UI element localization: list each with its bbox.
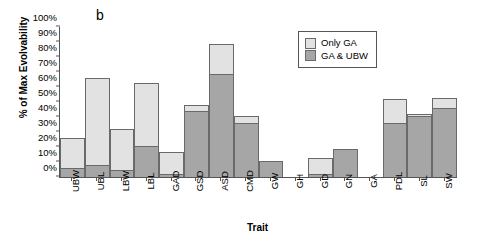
x-axis-title: Trait [59, 222, 456, 233]
legend-swatch-icon [305, 50, 316, 61]
legend-label: Only GA [321, 38, 357, 48]
x-axis-tick-label: GAD [171, 171, 181, 192]
x-tick-slot: GD [307, 181, 332, 225]
bar-segment-only-ga[interactable] [134, 83, 159, 146]
y-axis-tick-label: 70% [38, 58, 57, 68]
y-axis-tick-label: 60% [38, 73, 57, 83]
legend-label: GA & UBW [321, 51, 368, 61]
bar-segment-only-ga[interactable] [110, 129, 135, 170]
stacked-bar[interactable] [209, 44, 234, 178]
bar-segment-only-ga[interactable] [308, 158, 333, 175]
x-tick-slot: CMD [233, 181, 258, 225]
x-axis-tick-label: SW [444, 173, 454, 188]
x-axis-tick-label: GD [320, 174, 330, 188]
bar-segment-ga-and-ubw[interactable] [333, 149, 358, 178]
y-axis-title: % of Max Evolvability [18, 0, 29, 143]
y-axis-tick-label: 10% [38, 148, 57, 158]
x-tick-slot: LBW [109, 181, 134, 225]
x-tick-slot: PDL [382, 181, 407, 225]
x-axis-tick-label: GW [270, 173, 280, 189]
x-axis-tick-label: UBW [71, 170, 81, 192]
x-tick-slot: GW [258, 181, 283, 225]
bar-segment-only-ga[interactable] [432, 98, 457, 109]
x-tick-slot: LBL [133, 181, 158, 225]
y-axis-tick-label: 0% [43, 163, 57, 173]
x-axis-tick-labels: UBWUBLLBWLBLGADGSDASDCMDGWGHGDGNGAPDLSLS… [59, 181, 456, 225]
x-tick-slot: UBL [84, 181, 109, 225]
bar-slot [259, 27, 284, 177]
bar-segment-only-ga[interactable] [60, 138, 85, 168]
panel-letter: b [96, 8, 104, 22]
y-axis-tick-label: 80% [38, 43, 57, 53]
stacked-bar[interactable] [432, 98, 457, 178]
x-axis-tick-label: PDL [394, 172, 404, 190]
bar-segment-only-ga[interactable] [234, 116, 259, 124]
bar-slot [85, 27, 110, 177]
stacked-bar[interactable] [333, 149, 358, 178]
bar-slot [159, 27, 184, 177]
legend-swatch-icon [305, 38, 316, 49]
x-tick-slot: SW [431, 181, 456, 225]
y-axis-tick-label: 90% [38, 28, 57, 38]
bar-segment-only-ga[interactable] [209, 44, 234, 74]
y-axis-tick-label: 100% [33, 13, 57, 23]
figure-panel-b: b % of Max Evolvability 0%10%20%30%40%50… [0, 0, 480, 238]
x-tick-slot: GA [357, 181, 382, 225]
bar-slot [383, 27, 408, 177]
bar-slot [184, 27, 209, 177]
x-tick-slot: GAD [158, 181, 183, 225]
bar-slot [432, 27, 457, 177]
stacked-bar[interactable] [85, 78, 110, 177]
x-axis-tick-label: UBL [96, 172, 106, 190]
x-axis-tick-label: GA [369, 174, 379, 188]
x-axis-tick-label: LBL [146, 173, 156, 190]
x-tick-slot: SL [406, 181, 431, 225]
x-tick-slot: GN [332, 181, 357, 225]
y-axis-tick-label: 30% [38, 118, 57, 128]
y-axis-tick-label: 20% [38, 133, 57, 143]
bar-segment-only-ga[interactable] [383, 99, 408, 123]
x-axis-tick-label: GSD [195, 171, 205, 192]
legend-item[interactable]: GA & UBW [305, 50, 368, 61]
stacked-bar[interactable] [383, 99, 408, 177]
x-axis-tick-label: GN [344, 174, 354, 188]
chart-legend: Only GAGA & UBW [298, 31, 377, 68]
y-axis-tick-label: 50% [38, 88, 57, 98]
bar-segment-ga-and-ubw[interactable] [432, 108, 457, 177]
x-axis-tick-label: GH [295, 174, 305, 188]
stacked-bar[interactable] [184, 105, 209, 177]
y-axis-tick-label: 40% [38, 103, 57, 113]
stacked-bar[interactable] [134, 83, 159, 178]
bar-slot [60, 27, 85, 177]
stacked-bar[interactable] [234, 116, 259, 178]
x-axis-tick-label: LBW [121, 171, 131, 192]
x-tick-slot: UBW [59, 181, 84, 225]
bar-series-group [60, 27, 457, 177]
plot-area: 0%10%20%30%40%50%60%70%80%90%100% [59, 27, 457, 178]
x-axis-tick-label: ASD [220, 171, 230, 191]
x-axis-tick-label: CMD [245, 170, 255, 192]
bar-segment-only-ga[interactable] [85, 78, 110, 165]
bar-segment-ga-and-ubw[interactable] [184, 111, 209, 177]
stacked-bar[interactable] [407, 114, 432, 177]
bar-slot [407, 27, 432, 177]
bar-slot [209, 27, 234, 177]
x-axis-tick-label: SL [419, 175, 429, 187]
bar-segment-ga-and-ubw[interactable] [407, 116, 432, 178]
bar-slot [110, 27, 135, 177]
x-tick-slot: GSD [183, 181, 208, 225]
bar-segment-ga-and-ubw[interactable] [383, 123, 408, 177]
bar-slot [234, 27, 259, 177]
bar-segment-ga-and-ubw[interactable] [209, 74, 234, 178]
legend-item[interactable]: Only GA [305, 38, 368, 49]
bar-slot [134, 27, 159, 177]
x-tick-slot: ASD [208, 181, 233, 225]
x-tick-slot: GH [282, 181, 307, 225]
